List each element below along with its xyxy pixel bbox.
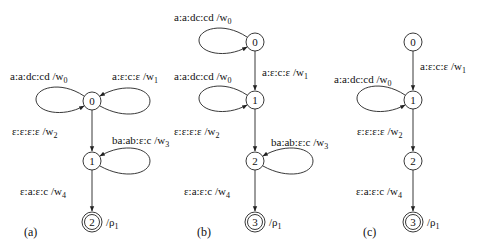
final-weight: /ρ1 [106,216,119,231]
transition-label: a:a:dc:cd /w0 [174,11,231,26]
svg-text:2: 2 [89,216,95,228]
transition-label: a:a:dc:cd /w0 [334,73,391,88]
state-node: 1 [246,91,264,109]
transition-label: a:a:dc:cd /w0 [174,70,231,85]
transition-label: ε:ε:ε:ε /w2 [357,125,402,140]
state-node: 0 [246,33,264,51]
self-loop-edge [263,148,313,174]
final-weight: /ρ1 [269,216,282,231]
transition-label: ε:a:ε:c /w4 [356,185,402,200]
svg-text:0: 0 [410,36,416,48]
self-loop-edge [100,88,150,114]
self-loop-edge [36,87,84,113]
panel-b: a:a:dc:cd /w0 a:ε:c:ε /w1 a:a:dc:cd /w0 … [174,11,328,239]
svg-text:3: 3 [252,216,258,228]
self-loop-edge [100,148,150,174]
panel-caption: (a) [24,225,37,239]
svg-text:1: 1 [89,155,95,167]
panel-caption: (b) [197,225,211,239]
transition-label: a:ε:c:ε /w1 [112,70,158,85]
transition-label: a:ε:c:ε /w1 [420,60,466,75]
svg-text:1: 1 [410,94,416,106]
final-state-node: 3 [403,212,423,232]
final-state-node: 3 [245,212,265,232]
panel-c: a:ε:c:ε /w1 a:a:dc:cd /w0 ε:ε:ε:ε /w2 ε:… [334,33,466,239]
svg-text:2: 2 [252,155,258,167]
state-node: 1 [404,91,422,109]
state-node: 2 [404,152,422,170]
final-weight: /ρ1 [427,216,440,231]
transition-label: ε:a:ε:c /w4 [184,185,230,200]
panel-caption: (c) [363,225,376,239]
transition-label: ε:a:ε:c /w4 [20,185,66,200]
wfst-diagram: a:a:dc:cd /w0 a:ε:c:ε /w1 ε:ε:ε:ε /w2 ba… [0,0,481,248]
transition-label: ε:ε:ε:ε /w2 [174,125,219,140]
svg-text:0: 0 [252,36,258,48]
svg-text:1: 1 [252,94,258,106]
transition-label: a:ε:c:ε /w1 [262,66,308,81]
svg-text:0: 0 [89,95,95,107]
state-node: 0 [404,33,422,51]
self-loop-edge [199,28,247,54]
transition-label: a:a:dc:cd /w0 [10,70,67,85]
state-node: 1 [83,152,101,170]
self-loop-edge [357,86,405,112]
svg-text:2: 2 [410,155,416,167]
state-node: 0 [83,92,101,110]
self-loop-edge [199,86,247,112]
final-state-node: 2 [82,212,102,232]
transition-label: ε:ε:ε:ε /w2 [12,125,57,140]
panel-a: a:a:dc:cd /w0 a:ε:c:ε /w1 ε:ε:ε:ε /w2 ba… [10,70,169,239]
state-node: 2 [246,152,264,170]
svg-text:3: 3 [410,216,416,228]
transition-label: ba:ab:ε:c /w3 [112,134,169,149]
